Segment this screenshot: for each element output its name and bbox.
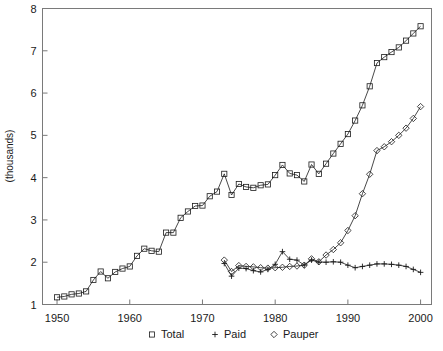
series-line-pauper bbox=[224, 107, 420, 272]
x-tick-label: 1960 bbox=[118, 312, 142, 324]
plot-frame bbox=[43, 9, 432, 305]
legend-marker-diamond bbox=[271, 331, 277, 337]
chart-page: 12345678 195019601970198019902000 (thous… bbox=[0, 0, 443, 351]
y-axis-ticks bbox=[43, 9, 48, 305]
y-tick-label: 8 bbox=[30, 3, 36, 15]
y-tick-label: 4 bbox=[30, 172, 36, 184]
legend-item-paid: Paid bbox=[212, 328, 246, 340]
legend-item-total: Total bbox=[149, 328, 184, 340]
line-chart: 12345678 195019601970198019902000 (thous… bbox=[0, 0, 443, 351]
x-axis-tick-labels: 195019601970198019902000 bbox=[45, 312, 433, 324]
series-total bbox=[54, 24, 423, 300]
x-tick-label: 1970 bbox=[190, 312, 214, 324]
legend-label: Pauper bbox=[283, 328, 319, 340]
x-tick-label: 1990 bbox=[336, 312, 360, 324]
series-paid bbox=[221, 249, 423, 279]
y-axis-tick-labels: 12345678 bbox=[30, 3, 36, 311]
x-tick-label: 2000 bbox=[408, 312, 432, 324]
legend-label: Total bbox=[161, 328, 184, 340]
y-tick-label: 7 bbox=[30, 45, 36, 57]
series-pauper bbox=[221, 103, 424, 274]
y-axis-label: (thousands) bbox=[4, 130, 15, 183]
legend-item-pauper: Pauper bbox=[271, 328, 319, 340]
y-tick-label: 2 bbox=[30, 256, 36, 268]
series-layer bbox=[54, 24, 423, 300]
y-tick-label: 5 bbox=[30, 129, 36, 141]
y-tick-label: 6 bbox=[30, 87, 36, 99]
svg-text:(thousands): (thousands) bbox=[4, 130, 15, 183]
x-tick-label: 1980 bbox=[263, 312, 287, 324]
y-tick-label: 1 bbox=[30, 299, 36, 311]
legend-marker-square bbox=[149, 332, 154, 337]
series-line-total bbox=[57, 26, 421, 297]
y-tick-label: 3 bbox=[30, 214, 36, 226]
legend-label: Paid bbox=[224, 328, 246, 340]
x-tick-label: 1950 bbox=[45, 312, 69, 324]
chart-legend: TotalPaidPauper bbox=[149, 328, 318, 340]
x-axis-ticks bbox=[57, 300, 421, 305]
